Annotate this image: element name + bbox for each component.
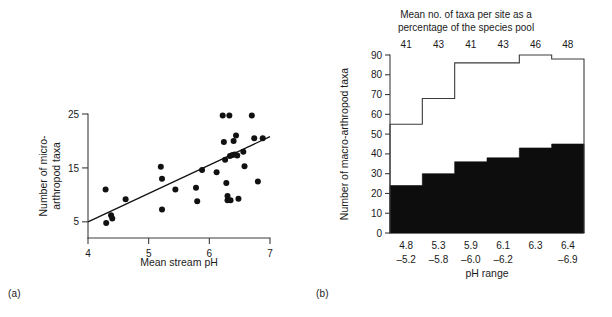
data-point — [103, 220, 109, 226]
panel-b-y-tick-label: 0 — [376, 228, 382, 239]
top-percentage-value: 41 — [465, 39, 477, 50]
panel-b-y-tick-label: 10 — [371, 208, 383, 219]
panel-a-xlabel: Mean stream pH — [140, 256, 218, 268]
panel-b-title-line2: percentage of the species pool — [398, 22, 534, 33]
trend-line — [88, 137, 270, 222]
panel-b-y-tick-label: 60 — [371, 109, 383, 120]
category-label-line2: –6.9 — [558, 254, 578, 265]
data-point — [233, 133, 239, 139]
y-tick-label: 5 — [73, 216, 79, 227]
category-label-line1: 6.1 — [496, 240, 510, 251]
y-tick-label: 15 — [68, 163, 80, 174]
category-label-line2: –6.0 — [461, 254, 481, 265]
panel-b-svg: Mean no. of taxa per site as a percentag… — [306, 0, 612, 285]
category-label-line2: –5.8 — [429, 254, 449, 265]
data-point — [255, 178, 261, 184]
panel-b-xlabel: pH range — [465, 267, 508, 279]
top-percentage-annotations: 414341434648 — [401, 39, 574, 50]
top-percentage-value: 43 — [433, 39, 445, 50]
data-point — [158, 164, 164, 170]
top-percentage-value: 41 — [401, 39, 413, 50]
data-point — [103, 186, 109, 192]
category-label-line1: 5.9 — [464, 240, 478, 251]
data-point — [221, 139, 227, 145]
x-tick-label: 7 — [267, 248, 273, 259]
y-axis-ticks: 51525 — [68, 109, 88, 228]
category-label-line2: –6.2 — [493, 254, 513, 265]
data-point — [123, 196, 129, 202]
data-point — [249, 113, 255, 119]
data-point — [231, 138, 237, 144]
scatter-points — [103, 113, 266, 226]
panel-b-step-chart: Mean no. of taxa per site as a percentag… — [306, 0, 612, 317]
data-point — [194, 198, 200, 204]
panel-b-y-tick-label: 70 — [371, 89, 383, 100]
panel-b-y-tick-label: 90 — [371, 50, 383, 61]
data-point — [159, 206, 165, 212]
panel-b-y-tick-label: 20 — [371, 188, 383, 199]
data-point — [223, 180, 229, 186]
data-point — [109, 216, 115, 222]
data-point — [228, 197, 234, 203]
panel-b-category-labels: 4.8–5.25.3–5.85.9–6.06.1–6.26.36.4–6.9 — [396, 240, 578, 265]
panel-b-y-tick-label: 30 — [371, 168, 383, 179]
panel-a-ylabel-line2: arthropod taxa — [50, 142, 62, 210]
figure-container: 51525 4567 Mean stream pH Number of micr… — [0, 0, 612, 317]
panel-b-label: (b) — [316, 288, 329, 299]
category-label-line1: 5.3 — [432, 240, 446, 251]
data-point — [159, 176, 165, 182]
panel-b-y-axis-ticks: 0102030405060708090 — [371, 50, 390, 239]
data-point — [193, 185, 199, 191]
category-label-line1: 6.3 — [529, 240, 543, 251]
panel-a-label: (a) — [8, 288, 21, 299]
data-point — [214, 169, 220, 175]
category-label-line1: 4.8 — [399, 240, 413, 251]
panel-a-ylabel-line1: Number of micro- — [37, 135, 49, 217]
top-percentage-value: 46 — [530, 39, 542, 50]
panel-b-title-line1: Mean no. of taxa per site as a — [400, 9, 532, 20]
data-point — [235, 196, 241, 202]
panel-b-ylabel: Number of macro-arthropod taxa — [338, 68, 350, 220]
panel-a-scatter: 51525 4567 Mean stream pH Number of micr… — [0, 0, 306, 317]
data-point — [251, 135, 257, 141]
data-point — [242, 163, 248, 169]
data-point — [172, 186, 178, 192]
top-percentage-value: 48 — [562, 39, 574, 50]
panel-b-y-tick-label: 80 — [371, 69, 383, 80]
panel-b-y-tick-label: 50 — [371, 129, 383, 140]
y-tick-label: 25 — [68, 109, 80, 120]
filled-step-series — [390, 144, 584, 233]
panel-b-y-tick-label: 40 — [371, 148, 383, 159]
top-percentage-value: 43 — [498, 39, 510, 50]
x-tick-label: 4 — [85, 248, 91, 259]
panel-a-svg: 51525 4567 Mean stream pH Number of micr… — [0, 0, 306, 285]
data-point — [220, 113, 226, 119]
category-label-line1: 6.4 — [561, 240, 575, 251]
category-label-line2: –5.2 — [396, 254, 416, 265]
data-point — [226, 113, 232, 119]
